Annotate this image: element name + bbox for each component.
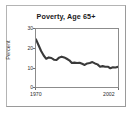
y-tick-label-10: 10 xyxy=(21,66,33,71)
chart-title: Poverty, Age 65+ xyxy=(0,12,132,21)
y-tick-label-20: 20 xyxy=(21,46,33,51)
x-tick-mark-1970 xyxy=(35,88,36,90)
x-tick-mark-2002 xyxy=(118,88,119,90)
x-tick-label-2002: 2002 xyxy=(103,91,115,97)
series-line xyxy=(36,29,118,87)
plot-area xyxy=(35,28,119,88)
y-tick-label-30: 30 xyxy=(21,26,33,31)
x-tick-label-1970: 1970 xyxy=(30,91,42,97)
y-axis-ticks: 30 20 10 0 xyxy=(19,28,33,88)
chart-figure: Poverty, Age 65+ Percent 30 20 10 0 1970… xyxy=(0,0,132,113)
y-axis-label: Percent xyxy=(5,28,11,72)
y-tick-label-0: 0 xyxy=(21,85,33,90)
